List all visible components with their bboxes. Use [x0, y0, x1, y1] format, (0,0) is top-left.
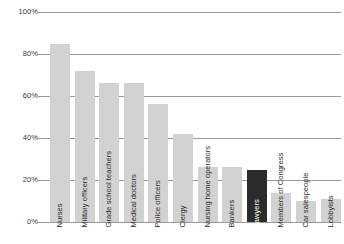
bar-label-nurses: Nurses	[56, 203, 65, 227]
bar-label-clergy: Clergy	[179, 206, 188, 228]
bar-label-car-salespeople: Car salespeople	[302, 173, 311, 228]
bar-label-lawyers: Lawyers	[252, 199, 261, 227]
bar-label-police-officers: Police officers	[154, 180, 163, 227]
bar-label-medical-doctors: Medical doctors	[129, 174, 138, 227]
bar-nurses[interactable]	[50, 44, 70, 223]
bar-label-members-of-congress: Members of Congress	[277, 153, 286, 228]
bar-label-bankers: Bankers	[228, 200, 237, 228]
bar-label-military-officers: Military officers	[80, 177, 89, 228]
bar-label-nursing-home-operators: Nursing home operators	[203, 146, 212, 228]
bar-chart: 0%20%40%60%80%100% NursesMilitary office…	[0, 0, 344, 244]
plot-area: NursesMilitary officersGrade school teac…	[0, 0, 344, 244]
bar-label-grade-school-teachers: Grade school teachers	[105, 151, 114, 228]
bar-label-lobbyists: Lobbyists	[326, 195, 335, 227]
